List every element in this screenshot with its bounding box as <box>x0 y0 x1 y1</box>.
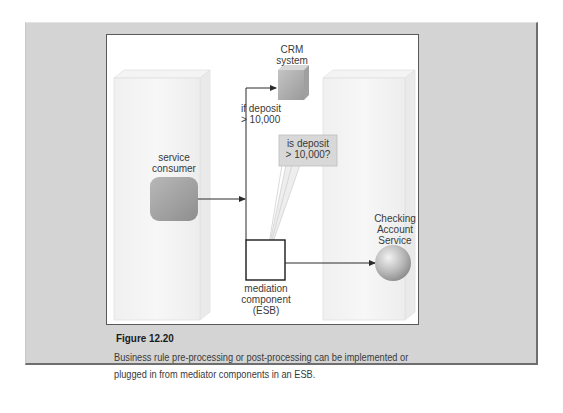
mediation-component-label: mediation component (ESB) <box>234 283 298 316</box>
right-pillar <box>323 70 415 320</box>
callout-text: is deposit > 10,000? <box>281 138 335 160</box>
checking-account-service-node <box>375 245 411 281</box>
figure-number: Figure 12.20 <box>116 332 174 344</box>
crm-condition-label: if deposit > 10,000 <box>241 103 291 125</box>
mediation-component-node <box>246 240 285 280</box>
checking-account-service-label: Checking Account Service <box>367 213 423 246</box>
service-consumer-label: service consumer <box>144 152 204 174</box>
figure-caption: Business rule pre-processing or post-pro… <box>114 349 484 383</box>
crm-system-label: CRM system <box>268 44 316 66</box>
service-consumer-node <box>150 177 198 221</box>
crm-system-node <box>278 65 309 100</box>
